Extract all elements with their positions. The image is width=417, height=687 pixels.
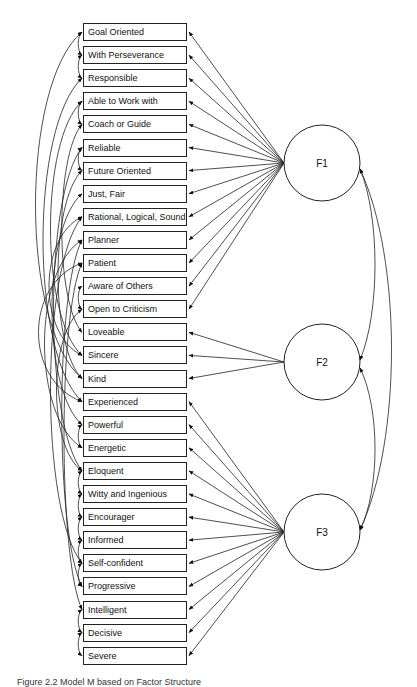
- loading-arrow: [189, 163, 284, 309]
- factor-covariances: [360, 169, 392, 530]
- indicator-box: Energetic: [83, 439, 187, 457]
- indicator-box: Loveable: [83, 323, 187, 341]
- loading-arrow: [189, 425, 284, 532]
- error-covariance-arc: [62, 124, 82, 332]
- loading-arrow: [189, 532, 284, 540]
- error-covariance-arc: [78, 55, 82, 78]
- indicator-box: Patient: [83, 254, 187, 272]
- error-covariance-arc: [78, 286, 82, 309]
- error-covariance-arc: [36, 32, 83, 379]
- error-covariance-arc: [78, 471, 82, 494]
- loading-arrow: [189, 471, 284, 532]
- error-covariance-arc: [78, 517, 82, 540]
- indicator-box: Planner: [83, 231, 187, 249]
- factor-covariance-arc: [360, 368, 375, 530]
- loading-arrow: [189, 532, 284, 656]
- error-covariances: [36, 32, 83, 656]
- loading-arrow: [189, 532, 284, 586]
- indicator-box: With Perseverance: [83, 46, 187, 64]
- indicator-box: Self-confident: [83, 554, 187, 572]
- error-covariance-arc: [78, 610, 82, 633]
- loading-arrow: [189, 532, 284, 610]
- factor-loadings: [189, 32, 284, 656]
- error-covariance-arc: [78, 32, 82, 55]
- loading-arrow: [189, 163, 284, 286]
- loading-arrow: [189, 163, 284, 171]
- indicator-box: Powerful: [83, 416, 187, 434]
- indicator-box: Experienced: [83, 393, 187, 411]
- indicator-box: Intelligent: [83, 601, 187, 619]
- indicator-box: Eloquent: [83, 462, 187, 480]
- loading-arrow: [189, 355, 284, 362]
- indicator-box: Encourager: [83, 508, 187, 526]
- factor-label: F3: [316, 527, 328, 538]
- loading-arrow: [189, 163, 284, 217]
- loading-arrow: [189, 332, 284, 362]
- indicator-box: Aware of Others: [83, 277, 187, 295]
- error-covariance-arc: [78, 425, 82, 448]
- indicator-box: Sincere: [83, 346, 187, 364]
- loading-arrow: [189, 362, 284, 379]
- indicator-box: Open to Criticism: [83, 300, 187, 318]
- error-covariance-arc: [78, 494, 82, 517]
- indicator-box: Goal Oriented: [83, 23, 187, 41]
- factor-label: F1: [316, 158, 328, 169]
- error-covariance-arc: [78, 148, 82, 171]
- error-covariance-arc: [78, 633, 82, 656]
- loading-arrow: [189, 532, 284, 633]
- factor-covariance-arc: [360, 169, 392, 530]
- indicator-box: Reliable: [83, 139, 187, 157]
- error-covariance-arc: [54, 148, 83, 471]
- indicator-box: Kind: [83, 370, 187, 388]
- indicator-box: Future Oriented: [83, 162, 187, 180]
- indicator-box: Progressive: [83, 577, 187, 595]
- factor-label: F2: [316, 357, 328, 368]
- loading-arrow: [189, 55, 284, 163]
- indicator-box: Informed: [83, 531, 187, 549]
- loading-arrow: [189, 163, 284, 240]
- error-covariance-arc: [78, 540, 82, 563]
- indicator-box: Able to Work with: [83, 92, 187, 110]
- indicator-box: Decisive: [83, 624, 187, 642]
- factor-covariance-arc: [360, 169, 375, 360]
- loading-arrow: [189, 402, 284, 532]
- indicator-box: Severe: [83, 647, 187, 665]
- latent-factors: F1F2F3: [284, 125, 360, 570]
- indicator-box: Just, Fair: [83, 185, 187, 203]
- indicator-box: Coach or Guide: [83, 115, 187, 133]
- loading-arrow: [189, 101, 284, 163]
- figure-caption: Figure 2.2 Model M based on Factor Struc…: [17, 677, 201, 687]
- indicator-box: Responsible: [83, 69, 187, 87]
- loading-arrow: [189, 78, 284, 163]
- indicator-box: Witty and Ingenious: [83, 485, 187, 503]
- indicator-box: Rational, Logical, Sound: [83, 208, 187, 226]
